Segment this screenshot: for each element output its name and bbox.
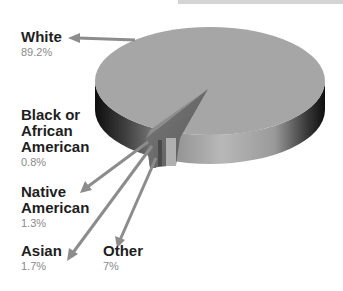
- label-native-pct: 1.3%: [21, 216, 89, 231]
- label-black-name-line2: African: [21, 123, 89, 139]
- label-native-name-line2: American: [21, 200, 89, 216]
- label-black-pct: 0.8%: [21, 155, 89, 170]
- label-black-name-line3: American: [21, 139, 89, 155]
- label-asian-pct: 1.7%: [21, 259, 62, 274]
- label-native: Native American 1.3%: [21, 184, 89, 231]
- label-white-name: White: [21, 29, 62, 45]
- label-black-name-line1: Black or: [21, 107, 89, 123]
- label-other-pct: 7%: [103, 259, 143, 274]
- label-white: White 89.2%: [21, 29, 62, 60]
- label-asian: Asian 1.7%: [21, 243, 62, 274]
- label-other-name: Other: [103, 243, 143, 259]
- label-other: Other 7%: [103, 243, 143, 274]
- label-asian-name: Asian: [21, 243, 62, 259]
- label-native-name-line1: Native: [21, 184, 89, 200]
- label-black: Black or African American 0.8%: [21, 107, 89, 170]
- pie-slice-white: [95, 27, 325, 135]
- label-white-pct: 89.2%: [21, 45, 62, 60]
